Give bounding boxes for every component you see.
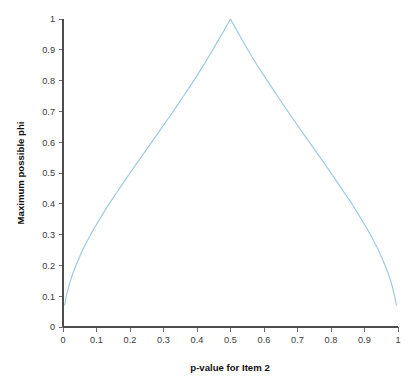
y-tick-label: 0.4 <box>42 199 55 209</box>
x-tick-label: 0.5 <box>224 335 237 345</box>
chart-figure: 00.10.20.30.40.50.60.70.80.91 00.10.20.3… <box>0 0 414 384</box>
x-tick-label: 1 <box>395 335 400 345</box>
x-tick-label: 0.6 <box>258 335 271 345</box>
x-axis-title: p-value for Item 2 <box>190 362 269 373</box>
x-tick-label: 0.7 <box>291 335 304 345</box>
y-tick-label: 1 <box>50 14 55 24</box>
x-tick-label: 0.9 <box>358 335 371 345</box>
data-series-line <box>65 19 397 305</box>
x-tick-label: 0.2 <box>124 335 137 345</box>
y-axis-title: Maximum possible phi <box>15 122 26 225</box>
y-axis-ticks: 00.10.20.30.40.50.60.70.80.91 <box>42 14 63 332</box>
y-tick-label: 0.7 <box>42 107 55 117</box>
y-tick-label: 0.6 <box>42 138 55 148</box>
x-tick-label: 0.4 <box>191 335 204 345</box>
y-tick-label: 0.5 <box>42 168 55 178</box>
y-tick-label: 0.8 <box>42 76 55 86</box>
y-tick-label: 0.1 <box>42 292 55 302</box>
y-tick-label: 0 <box>50 322 55 332</box>
x-tick-label: 0.3 <box>157 335 170 345</box>
y-tick-label: 0.9 <box>42 45 55 55</box>
y-tick-label: 0.2 <box>42 261 55 271</box>
x-axis-ticks: 00.10.20.30.40.50.60.70.80.91 <box>60 327 400 345</box>
x-tick-label: 0 <box>60 335 65 345</box>
plot-canvas: 00.10.20.30.40.50.60.70.80.91 00.10.20.3… <box>0 0 414 384</box>
x-tick-label: 0.1 <box>90 335 103 345</box>
y-tick-label: 0.3 <box>42 230 55 240</box>
x-tick-label: 0.8 <box>325 335 338 345</box>
